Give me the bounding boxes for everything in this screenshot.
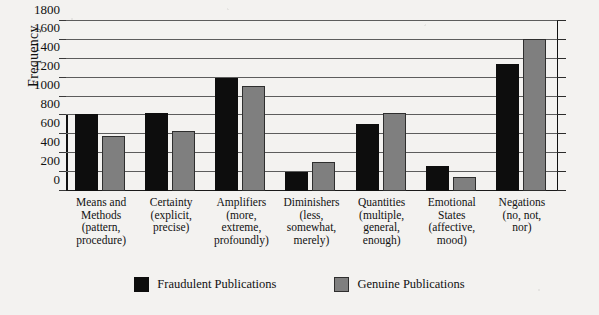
y-tick-mark-600 [59, 133, 66, 134]
bar-genuine [523, 39, 546, 191]
bar-genuine [172, 131, 195, 191]
y-tick-mark-0 [59, 190, 66, 191]
y-tick-label-400: 400 [41, 134, 61, 147]
right-tick-mark-1400 [557, 58, 566, 59]
x-tick-label: Diminishers(less,somewhat,merely) [276, 196, 346, 246]
bar-group [417, 21, 487, 191]
legend-item[interactable]: Genuine Publications [334, 277, 464, 292]
right-tick-mark-1200 [557, 77, 566, 78]
y-tick-label-1800: 1800 [34, 2, 60, 15]
bar-fraudulent [285, 172, 308, 191]
bar-group [347, 21, 417, 191]
right-tick-mark-1000 [557, 96, 566, 97]
y-tick-label-1000: 1000 [34, 78, 60, 91]
x-tick-label: Certainty(explicit,precise) [136, 196, 206, 246]
bar-groups [66, 21, 557, 191]
bar-group [206, 21, 276, 191]
bar-group [66, 21, 136, 191]
y-tick-mark-1400 [59, 58, 66, 59]
x-tick-label: EmotionalStates(affective,mood) [417, 196, 487, 246]
plot-area: 020040060080010001200140016001800 [66, 21, 557, 191]
x-tick-label: Amplifiers(more,extreme,profoundly) [206, 196, 276, 246]
legend-item[interactable]: Fraudulent Publications [134, 277, 276, 292]
legend-label: Genuine Publications [357, 277, 464, 292]
y-tick-label-0: 0 [54, 172, 61, 185]
right-axis-spine [557, 21, 558, 191]
y-tick-label-800: 800 [41, 96, 61, 109]
chart-legend: Fraudulent PublicationsGenuine Publicati… [0, 277, 599, 292]
bar-fraudulent [215, 78, 238, 191]
bar-genuine [383, 113, 406, 191]
y-tick-label-600: 600 [41, 115, 61, 128]
y-tick-mark-1800 [59, 20, 66, 21]
legend-swatch-icon [334, 277, 349, 292]
legend-label: Fraudulent Publications [157, 277, 276, 292]
y-tick-label-1600: 1600 [34, 21, 60, 34]
x-tick-label: Negations(no, not,nor) [487, 196, 557, 246]
y-tick-label-200: 200 [41, 153, 61, 166]
y-tick-mark-1000 [59, 96, 66, 97]
y-tick-mark-400 [59, 152, 66, 153]
legend-swatch-icon [134, 277, 149, 292]
y-tick-mark-800 [59, 114, 66, 115]
y-tick-label-1200: 1200 [34, 59, 60, 72]
bar-fraudulent [426, 166, 449, 192]
bar-genuine [102, 136, 125, 191]
x-tick-label: Quantities(multiple,general,enough) [347, 196, 417, 246]
bar-genuine [242, 86, 265, 191]
bar-group [487, 21, 557, 191]
y-tick-label-1400: 1400 [34, 40, 60, 53]
right-tick-mark-600 [557, 133, 566, 134]
y-tick-mark-1600 [59, 39, 66, 40]
right-tick-mark-1600 [557, 39, 566, 40]
right-tick-mark-200 [557, 171, 566, 172]
bar-fraudulent [145, 113, 168, 191]
right-tick-mark-400 [557, 152, 566, 153]
bar-chart: Frequency 020040060080010001200140016001… [0, 0, 599, 315]
bar-genuine [453, 177, 476, 191]
bar-group [136, 21, 206, 191]
x-axis-labels: Means andMethods(pattern,procedure)Certa… [66, 196, 557, 246]
bar-fraudulent [75, 114, 98, 191]
y-tick-mark-1200 [59, 77, 66, 78]
right-tick-mark-0 [557, 190, 566, 191]
y-tick-mark-200 [59, 171, 66, 172]
x-tick-label: Means andMethods(pattern,procedure) [66, 196, 136, 246]
bar-fraudulent [356, 124, 379, 191]
bar-genuine [312, 162, 335, 191]
bar-fraudulent [496, 64, 519, 192]
bar-group [276, 21, 346, 191]
right-tick-mark-1800 [557, 20, 566, 21]
right-tick-mark-800 [557, 114, 566, 115]
